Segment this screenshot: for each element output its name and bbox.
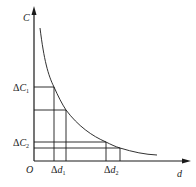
capacitance-distance-diagram: C d O ΔC1 ΔC2 Δd1 Δd2 <box>0 0 196 187</box>
delta-c2-label: ΔC2 <box>13 137 29 149</box>
delta-d2-label: Δd2 <box>104 164 118 176</box>
y-axis-label: C <box>23 12 30 23</box>
delta-1-guides <box>34 87 66 161</box>
origin-label: O <box>26 164 33 175</box>
y-axis-arrow-icon <box>32 6 37 15</box>
delta-c1-label: ΔC1 <box>13 82 29 94</box>
axes <box>32 6 192 164</box>
x-axis-label: d <box>177 168 183 179</box>
delta-2-guides <box>34 142 120 161</box>
capacitance-curve <box>40 28 157 155</box>
delta-d1-label: Δd1 <box>51 164 65 176</box>
x-axis-arrow-icon <box>182 159 191 164</box>
